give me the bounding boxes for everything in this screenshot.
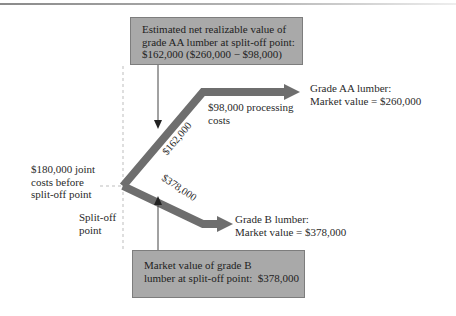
grade-aa-product-label: Grade AA lumber: Market value = $260,000 bbox=[310, 82, 421, 107]
label-line: Split-off bbox=[79, 211, 116, 224]
joint-costs-label: $180,000 joint costs before split-off po… bbox=[31, 163, 95, 201]
box-line: Estimated net realizable value of bbox=[142, 23, 302, 36]
nrv-grade-aa-box: Estimated net realizable value of grade … bbox=[130, 17, 303, 65]
down-arrow-icon bbox=[154, 120, 162, 129]
label-line: Grade B lumber: bbox=[235, 213, 346, 226]
label-line: $98,000 processing bbox=[208, 101, 294, 114]
split-off-label: Split-off point bbox=[79, 211, 116, 236]
label-line: costs bbox=[208, 114, 294, 127]
lower-arrowhead-icon bbox=[217, 216, 233, 232]
label-line: split-off point bbox=[31, 188, 95, 201]
processing-costs-label: $98,000 processing costs bbox=[208, 101, 294, 126]
label-line: Market value = $378,000 bbox=[235, 226, 346, 239]
lower-branch-arrow bbox=[123, 186, 219, 224]
upper-arrowhead-icon bbox=[284, 84, 300, 100]
label-line: point bbox=[79, 224, 116, 237]
box-line: grade AA lumber at split-off point: bbox=[142, 36, 302, 49]
label-line: costs before bbox=[31, 176, 95, 189]
grade-b-product-label: Grade B lumber: Market value = $378,000 bbox=[235, 213, 346, 238]
box-line: Market value of grade B bbox=[144, 259, 304, 272]
box-line: $162,000 ($260,000 − $98,000) bbox=[142, 48, 302, 61]
market-value-grade-b-box: Market value of grade B lumber at split-… bbox=[132, 250, 305, 298]
label-line: Grade AA lumber: bbox=[310, 82, 421, 95]
label-line: Market value = $260,000 bbox=[310, 95, 421, 108]
label-line: $180,000 joint bbox=[31, 163, 95, 176]
box-line: lumber at split-off point: $378,000 bbox=[144, 272, 304, 285]
